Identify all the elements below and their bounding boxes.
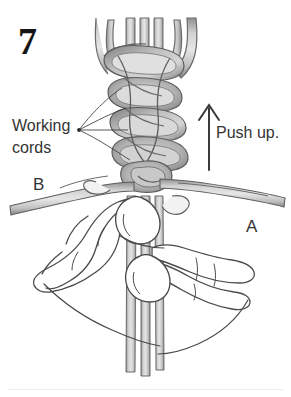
- knot-illustration: [0, 0, 291, 397]
- working-cords-label-line1: Working: [12, 117, 70, 135]
- cord-label-a: A: [246, 218, 257, 236]
- braid-knots: [104, 44, 188, 193]
- working-cords-label-line2: cords: [12, 139, 51, 157]
- step-number: 7: [18, 22, 36, 60]
- cord-label-b: B: [33, 176, 44, 194]
- push-up-label: Push up.: [216, 124, 279, 142]
- instruction-figure: 7 Working cords B A Push up.: [0, 0, 291, 397]
- bottom-divider: [8, 389, 283, 390]
